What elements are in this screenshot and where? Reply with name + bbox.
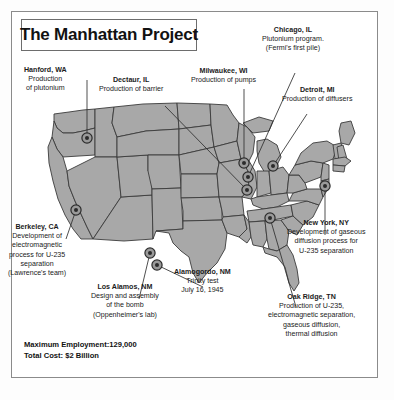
callout-city-berkeley: Berkeley, CA [8, 223, 66, 232]
marker-alamogordo[interactable] [152, 260, 162, 270]
state-shapes [48, 103, 355, 291]
title-box: The Manhattan Project [21, 19, 197, 51]
poster-canvas: The Manhattan Project Hanford, WA Produc… [0, 0, 394, 400]
callout-alamogordo: Alamogordo, NM Trinity test July 16, 194… [174, 268, 231, 296]
callout-chicago: Chicago, IL Plutonium program. (Fermi's … [262, 26, 324, 54]
callout-city-chicago: Chicago, IL [262, 26, 324, 35]
marker-newyork[interactable] [320, 181, 330, 191]
callout-line: (Lawrence's team) [8, 269, 66, 278]
callout-newyork: New York, NY Development of gaseous diff… [287, 219, 365, 256]
callout-line: electromagnetic [8, 241, 66, 250]
callout-line: Production of U-235, [268, 302, 355, 311]
callout-detroit: Detroit, MI Production of diffusers [282, 86, 352, 104]
callout-line: Development of gaseous [287, 228, 365, 237]
callout-line: (Oppenheimer's lab) [91, 311, 159, 320]
callout-city-newyork: New York, NY [287, 219, 365, 228]
callout-hanford: Hanford, WA Production of plutonium [24, 66, 67, 94]
marker-oakridge[interactable] [265, 213, 275, 223]
callout-line: Development of [8, 232, 66, 241]
callout-milwaukee: Milwaukee, WI Production of pumps [191, 67, 256, 85]
callout-line: Trinity test [174, 277, 231, 286]
callout-berkeley: Berkeley, CA Development of electromagne… [8, 223, 66, 278]
page-title: The Manhattan Project [20, 25, 198, 45]
callout-line: thermal diffusion [268, 330, 355, 339]
callout-losalamos: Los Alamos, NM Design and assembly of th… [91, 283, 159, 320]
callout-city-oakridge: Oak Ridge, TN [268, 293, 355, 302]
callout-line: process for U-235 [8, 251, 66, 260]
callout-oakridge: Oak Ridge, TN Production of U-235, elect… [268, 293, 355, 339]
marker-milwaukee[interactable] [239, 158, 249, 168]
callout-line: Design and assembly [91, 292, 159, 301]
callout-city-hanford: Hanford, WA [24, 66, 67, 75]
callout-line: separation [8, 260, 66, 269]
callout-decatur: Dectaur, IL Production of barrier [99, 76, 163, 94]
callout-line: (Fermi's first pile) [262, 44, 324, 53]
callout-line: July 16, 1945 [174, 286, 231, 295]
callout-line: Production of barrier [99, 85, 163, 94]
stat-cost: Total Cost: $2 Billion [24, 351, 137, 362]
callout-line: Production of pumps [191, 76, 256, 85]
marker-decatur[interactable] [242, 185, 252, 195]
callout-line: gaseous diffusion, [268, 321, 355, 330]
callout-line: diffusion process for [287, 237, 365, 246]
marker-hanford[interactable] [82, 133, 92, 143]
summary-stats: Maximum Employment:129,000 Total Cost: $… [24, 340, 137, 361]
callout-line: of plutonium [24, 84, 67, 93]
callout-city-alamogordo: Alamogordo, NM [174, 268, 231, 277]
stat-employment: Maximum Employment:129,000 [24, 340, 137, 351]
marker-chicago[interactable] [243, 172, 253, 182]
marker-berkeley[interactable] [71, 205, 81, 215]
callout-city-losalamos: Los Alamos, NM [91, 283, 159, 292]
callout-line: Production [24, 75, 67, 84]
marker-detroit[interactable] [268, 161, 278, 171]
marker-losalamos[interactable] [145, 248, 155, 258]
callout-line: of the bomb [91, 301, 159, 310]
callout-line: Plutonium program. [262, 35, 324, 44]
callout-line: Production of diffusers [282, 95, 352, 104]
callout-line: electromagnetic separation, [268, 311, 355, 320]
callout-line: U-235 separation [287, 247, 365, 256]
callout-city-decatur: Dectaur, IL [99, 76, 163, 85]
callout-city-milwaukee: Milwaukee, WI [191, 67, 256, 76]
callout-city-detroit: Detroit, MI [282, 86, 352, 95]
